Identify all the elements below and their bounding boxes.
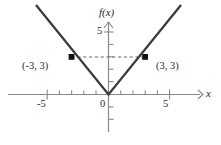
y-axis-label: f(x) [99,7,114,18]
x-axis-label: x [206,88,211,99]
y-tick-label-5: 5 [97,26,102,37]
x-tick-label-zero: 0 [100,99,105,110]
absolute-value-function-graph: f(x) x 5 -5 0 5 (-3, 3) (3, 3) [0,0,221,145]
point-label-right: (3, 3) [156,61,179,72]
point-label-left: (-3, 3) [22,61,48,72]
x-tick-label-pos5: 5 [163,99,168,110]
x-tick-label-neg5: -5 [37,99,46,110]
plot-canvas [0,0,221,145]
point-marker-left [69,54,75,60]
point-marker-right [142,54,148,60]
